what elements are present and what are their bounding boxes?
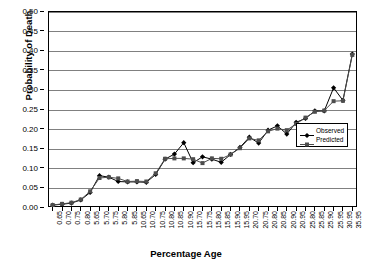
series-point: [69, 201, 73, 205]
x-axis-tick-label: 20.85: [280, 211, 287, 229]
legend-marker: [305, 143, 309, 147]
x-axis-labels: 0.650.700.750.805.655.705.755.805.8510.6…: [48, 211, 357, 245]
y-axis-tick: [40, 167, 44, 168]
x-axis-tick-label: 0.75: [74, 211, 81, 225]
y-axis-tick-label: 0.40: [22, 46, 38, 55]
series-point: [163, 157, 167, 161]
x-axis-tick-label: 20.80: [271, 211, 278, 229]
x-axis-tick-label: 20.90: [290, 211, 297, 229]
square-marker-icon: [299, 135, 315, 144]
series-point: [219, 157, 223, 161]
x-axis-tick-label: 15.75: [206, 211, 213, 229]
y-axis-tick-label: 0.50: [22, 7, 38, 16]
series-point: [79, 198, 83, 202]
x-axis-tick-label: 20.75: [262, 211, 269, 229]
series-point: [88, 189, 92, 193]
y-axis-tick-label: 0.15: [22, 144, 38, 153]
x-axis-tick-label: 15.90: [234, 211, 241, 229]
x-axis-tick-label: 10.90: [187, 211, 194, 229]
series-point: [172, 156, 176, 160]
x-axis-tick-label: 30.95: [346, 211, 353, 229]
series-point: [182, 156, 186, 160]
x-axis-tick-label: 0.70: [65, 211, 72, 225]
series-point: [247, 136, 251, 140]
series-point: [285, 128, 289, 132]
series-point: [332, 99, 336, 103]
series-point: [266, 129, 270, 133]
x-axis-tick-label: 5.70: [103, 211, 110, 225]
x-axis-tick-label: 15.95: [243, 211, 250, 229]
x-axis-tick-label: 20.95: [299, 211, 306, 229]
legend-item: Observed: [299, 126, 344, 135]
x-axis-tick-label: 25.85: [318, 211, 325, 229]
y-axis-tick-label: 0.35: [22, 65, 38, 74]
x-axis-tick-label: 10.70: [149, 211, 156, 229]
x-axis-tick-label: 5.80: [121, 211, 128, 225]
series-point: [322, 109, 326, 113]
legend-label: Predicted: [316, 136, 343, 143]
y-axis-tick-label: 0.10: [22, 163, 38, 172]
series-point: [154, 171, 158, 175]
series-point: [238, 146, 242, 150]
series-point: [126, 180, 130, 184]
legend-item: Predicted: [299, 135, 344, 144]
data-series-layer: [48, 11, 357, 207]
x-axis-tick-label: 15.85: [224, 211, 231, 229]
x-axis-tick-label: 0.80: [84, 211, 91, 225]
y-axis-tick: [40, 11, 44, 12]
y-axis-tick: [40, 109, 44, 110]
x-axis-tick-label: 10.65: [140, 211, 147, 229]
x-axis-tick-label: 25.90: [327, 211, 334, 229]
y-axis-tick: [40, 187, 44, 188]
series-point: [275, 127, 279, 131]
y-axis-tick-label: 0.05: [22, 183, 38, 192]
y-axis-tick-label: 0.00: [22, 203, 38, 212]
series-point: [60, 202, 64, 206]
x-axis-tick-label: 0.65: [56, 211, 63, 225]
y-axis-tick-label: 0.45: [22, 26, 38, 35]
series-point: [350, 53, 354, 57]
series-point: [229, 152, 233, 156]
diamond-marker-icon: [299, 126, 315, 135]
x-axis-tick-label: 10.80: [168, 211, 175, 229]
series-point: [107, 175, 111, 179]
y-axis-tick: [40, 128, 44, 129]
y-axis-tick: [40, 89, 44, 90]
y-axis-tick: [40, 30, 44, 31]
x-axis-title: Percentage Age: [0, 248, 372, 259]
series-point: [257, 138, 261, 142]
x-axis-tick-label: 5.65: [93, 211, 100, 225]
y-axis-tick-label: 0.30: [22, 85, 38, 94]
y-axis-tick-label: 0.25: [22, 105, 38, 114]
x-axis-tick-label: 25.95: [337, 211, 344, 229]
series-point: [304, 116, 308, 120]
series-point: [135, 179, 139, 183]
y-axis-tick: [40, 50, 44, 51]
series-point: [191, 157, 195, 161]
y-axis-tick: [40, 69, 44, 70]
series-point: [200, 154, 205, 159]
y-axis-tick-label: 0.20: [22, 124, 38, 133]
series-point: [116, 176, 120, 180]
x-axis-tick-label: 10.75: [159, 211, 166, 229]
x-axis-tick-label: 5.85: [131, 211, 138, 225]
chart-container: Probability of Death 0.000.050.100.150.2…: [0, 0, 372, 267]
series-point: [144, 180, 148, 184]
x-axis-tick-label: 5.75: [112, 211, 119, 225]
y-axis-labels: 0.000.050.100.150.200.250.300.350.400.45…: [0, 11, 44, 207]
y-axis-tick: [40, 207, 44, 208]
y-axis-tick: [40, 148, 44, 149]
series-point: [313, 110, 317, 114]
chart-legend: ObservedPredicted: [296, 123, 348, 147]
legend-label: Observed: [316, 127, 344, 134]
x-axis-tick-label: 15.70: [196, 211, 203, 229]
x-axis-tick-label: 10.85: [177, 211, 184, 229]
x-axis-tick-label: 25.80: [309, 211, 316, 229]
x-axis-tick-label: 35.95: [355, 211, 362, 229]
series-point: [201, 161, 205, 165]
series-point: [210, 156, 214, 160]
x-axis-tick-label: 20.70: [252, 211, 259, 229]
series-point: [341, 99, 345, 103]
series-point: [98, 176, 102, 180]
x-axis-tick-label: 15.80: [215, 211, 222, 229]
